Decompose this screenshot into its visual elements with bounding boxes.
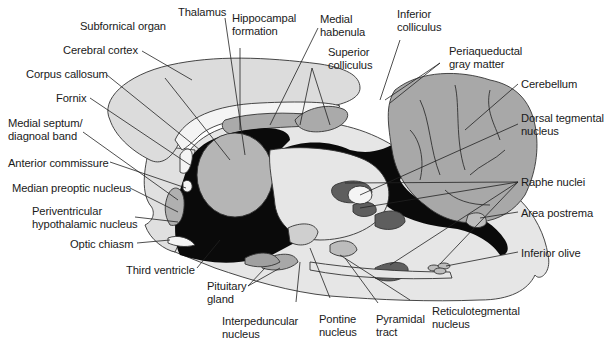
label-hippocampal-line1: Hippocampal (232, 12, 296, 25)
label-pontine-line2: nucleus (319, 326, 357, 339)
label-anterior-commissure: Anterior commissure (8, 157, 109, 170)
label-fornix: Fornix (56, 92, 86, 105)
label-periaqueductal-line2: gray matter (449, 58, 522, 71)
label-medial-habenula-line1: Medial (320, 13, 365, 26)
reticulotegmental-shape (330, 241, 357, 256)
label-optic-chiasm: Optic chiasm (70, 238, 133, 251)
area-postrema-shape (466, 213, 486, 228)
label-dorsal-tegmental-line1: Dorsal tegmental (521, 112, 604, 125)
label-cerebral-cortex: Cerebral cortex (63, 44, 138, 57)
label-third-ventricle: Third ventricle (126, 264, 195, 277)
label-area-postrema: Area postrema (521, 207, 593, 220)
label-periventricular-line2: hypothalamic nucleus (32, 218, 138, 231)
label-superior-colliculus: Superior colliculus (328, 46, 372, 71)
label-inferior-colliculus-line1: Inferior (397, 8, 441, 21)
label-inferior-colliculus: Inferior colliculus (397, 8, 441, 33)
label-pontine-nucleus: Pontine nucleus (319, 313, 357, 338)
label-cerebellum: Cerebellum (521, 78, 577, 91)
label-interpeduncular-nucleus: Interpeduncular nucleus (222, 315, 298, 340)
label-pyramidal-tract: Pyramidal tract (376, 313, 425, 338)
pontine-dark-shape (375, 211, 405, 230)
label-reticulotegmental-nucleus: Reticulotegmental nucleus (432, 305, 520, 330)
label-pontine-line1: Pontine (319, 313, 357, 326)
label-reticulotegmental-line2: nucleus (432, 318, 520, 331)
label-medial-septum-line2: diagnoal band (8, 130, 82, 143)
label-dorsal-tegmental-line2: nucleus (521, 125, 604, 138)
median-preoptic-shape (183, 180, 192, 191)
label-medial-habenula-line2: habenula (320, 26, 365, 39)
label-medial-septum: Medial septum/ diagnoal band (8, 117, 82, 142)
label-inferior-olive: Inferior olive (521, 247, 581, 260)
label-corpus-callosum: Corpus callosum (26, 68, 108, 81)
label-thalamus: Thalamus (178, 6, 226, 19)
label-pyramidal-line1: Pyramidal (376, 313, 425, 326)
label-pituitary-line1: Pituitary (207, 280, 247, 293)
label-interpeduncular-line2: nucleus (222, 328, 298, 341)
label-reticulotegmental-line1: Reticulotegmental (432, 305, 520, 318)
label-hippocampal-formation: Hippocampal formation (232, 12, 296, 37)
label-periventricular: Periventricular hypothalamic nucleus (32, 205, 138, 230)
label-pituitary-line2: gland (207, 293, 247, 306)
label-pituitary-gland: Pituitary gland (207, 280, 247, 305)
label-inferior-colliculus-line2: colliculus (397, 21, 441, 34)
thalamus-shape (197, 133, 273, 217)
label-periaqueductal-gray: Periaqueductal gray matter (449, 45, 522, 70)
label-medial-habenula: Medial habenula (320, 13, 365, 38)
label-superior-colliculus-line1: Superior (328, 46, 372, 59)
label-periventricular-line1: Periventricular (32, 205, 138, 218)
label-periaqueductal-line1: Periaqueductal (449, 45, 522, 58)
label-medial-septum-line1: Medial septum/ (8, 117, 82, 130)
label-raphe-nuclei: Raphe nuclei (521, 176, 585, 189)
label-median-preoptic-nucleus: Median preoptic nucleus (12, 182, 131, 195)
label-pyramidal-line2: tract (376, 326, 425, 339)
label-dorsal-tegmental-nucleus: Dorsal tegmental nucleus (521, 112, 604, 137)
raphe-small-shape (353, 202, 376, 216)
label-superior-colliculus-line2: colliculus (328, 59, 372, 72)
label-hippocampal-line2: formation (232, 25, 296, 38)
label-subfornical-organ: Subfornical organ (80, 20, 166, 33)
label-interpeduncular-line1: Interpeduncular (222, 315, 298, 328)
